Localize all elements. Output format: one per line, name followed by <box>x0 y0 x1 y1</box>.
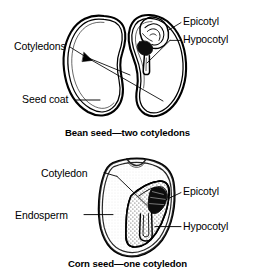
label-corn-hypocotyl: Hypocotyl <box>183 221 228 232</box>
label-corn-endosperm: Endosperm <box>15 210 68 221</box>
label-bean-seed-coat: Seed coat <box>22 94 68 105</box>
caption-bean-seed: Bean seed—two cotyledons <box>0 127 255 138</box>
label-bean-hypocotyl: Hypocotyl <box>183 34 228 45</box>
label-corn-cotyledon: Cotyledon <box>41 168 87 179</box>
label-bean-cotyledons: Cotyledons <box>14 41 66 52</box>
label-corn-epicotyl: Epicotyl <box>183 186 219 197</box>
seed-structure-figure: Cotyledons Seed coat Epicotyl Hypocotyl … <box>0 0 255 277</box>
label-bean-epicotyl: Epicotyl <box>183 16 219 27</box>
caption-corn-seed: Corn seed—one cotyledon <box>0 258 255 269</box>
